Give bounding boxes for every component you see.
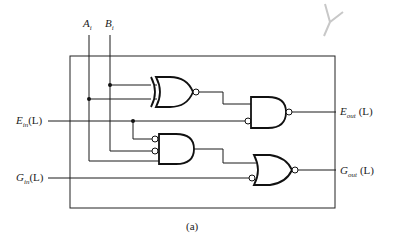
output-label-g-out: Gout(L) [340,164,374,179]
output-label-e-out: Eout(L) [339,105,373,120]
input-label-e-in: Ein(L) [15,114,43,129]
wire-e-in-and [133,121,152,139]
nor-output-bubble [292,167,298,173]
xnor-gate [151,77,199,107]
input-label-g-in: Gin(L) [16,171,44,186]
and-mid-gate [159,134,194,164]
and-input-bubble-2 [152,148,158,154]
xnor-output-bubble [193,89,199,95]
input-label-a: Ai [82,17,92,32]
watermark-mark [324,4,343,36]
input-label-b: Bi [105,17,114,32]
figure-caption: (a) [186,220,199,233]
wire-and-nor [194,149,258,163]
nand-e-gate [251,97,292,128]
comparator-circuit-diagram: Ai Bi Ein(L) Eout(L) Gin(L) [0,0,393,244]
and-input-bubble-1 [152,136,158,142]
wire-xnor-nand [199,92,251,104]
nand-e-output-bubble [286,109,292,115]
nor-input-bubble [249,175,255,181]
nor-g-gate [254,155,298,185]
